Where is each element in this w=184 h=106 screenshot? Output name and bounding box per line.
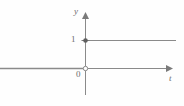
origin-label-zero: 0 <box>76 70 81 79</box>
open-circle-at-origin-icon <box>83 66 87 70</box>
t-axis-arrowhead <box>166 65 173 72</box>
filled-dot-at-unit-icon <box>83 38 88 43</box>
y-axis-arrowhead <box>82 12 89 19</box>
t-axis-label: t <box>169 74 172 83</box>
y-axis-label: y <box>74 7 78 16</box>
plot-canvas <box>0 0 184 106</box>
step-function-figure: y t 1 0 <box>0 0 184 106</box>
y-tick-label-one: 1 <box>71 35 76 44</box>
